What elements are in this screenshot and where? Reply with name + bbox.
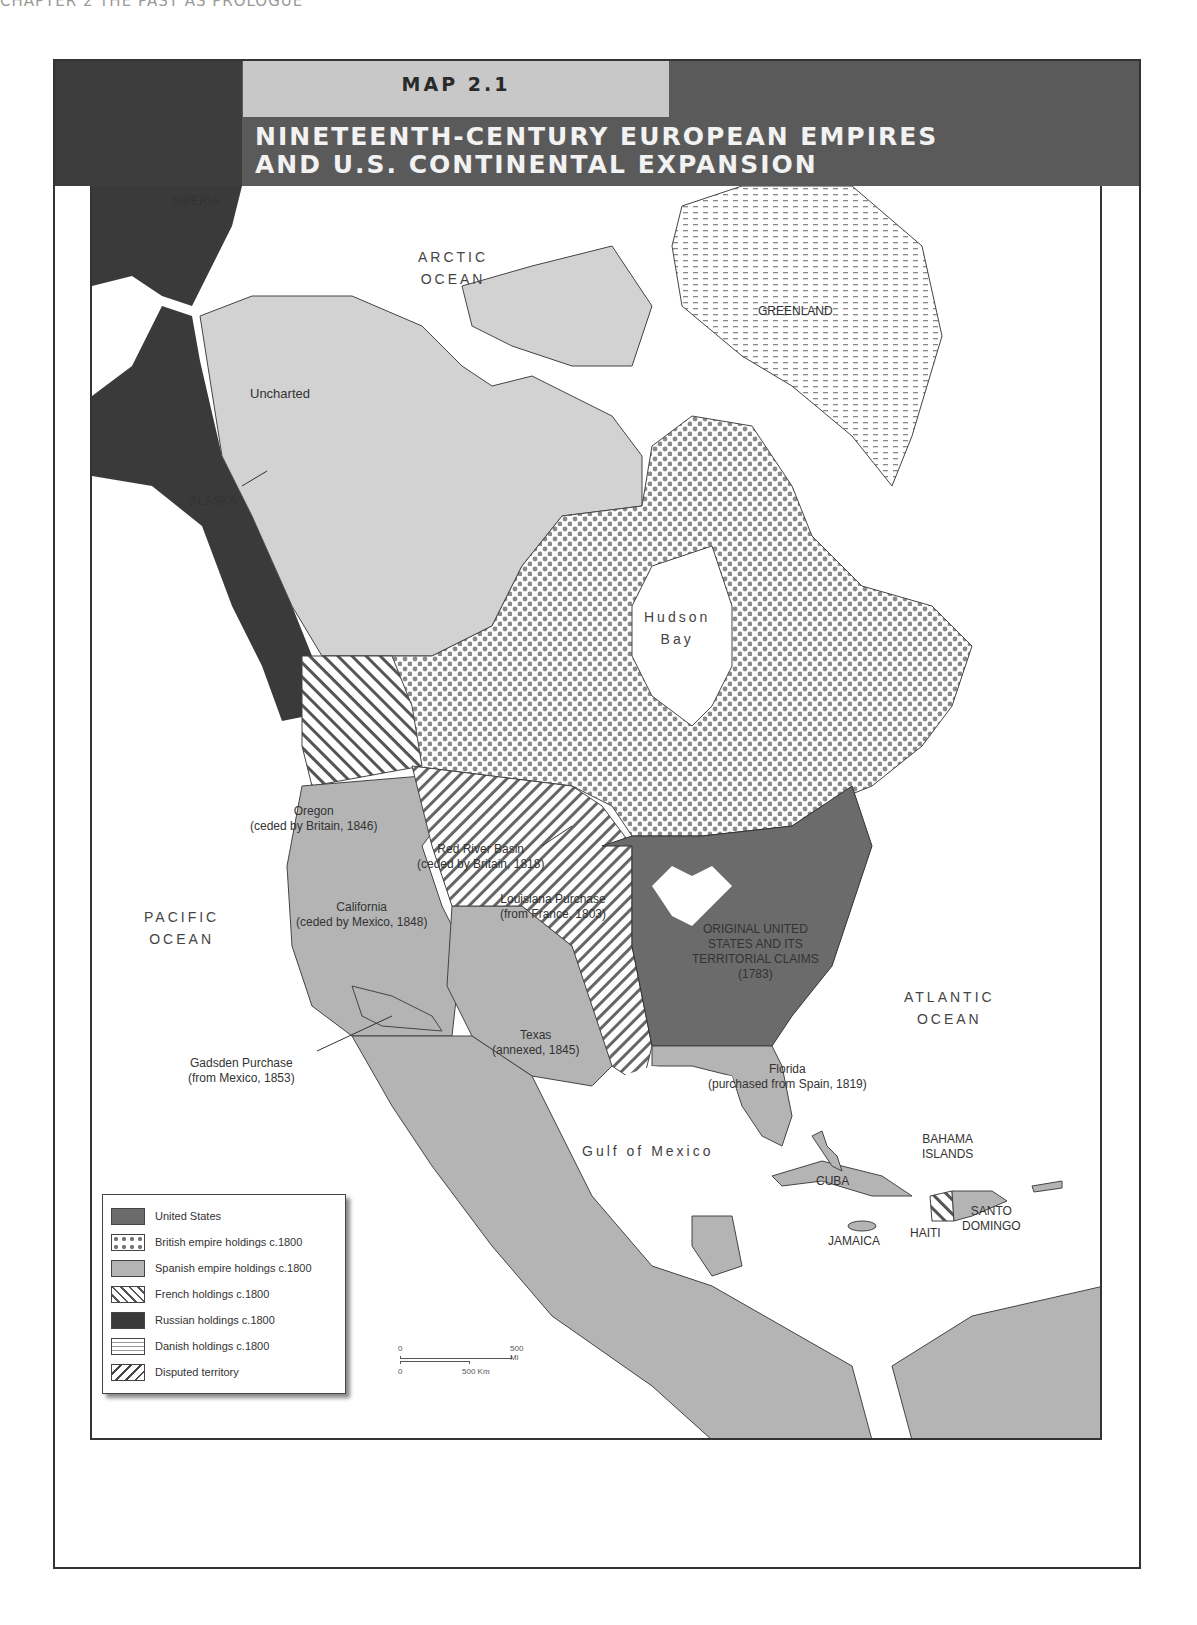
legend-item-spanish: Spanish empire holdings c.1800: [111, 1255, 337, 1281]
label-bahama-islands: BAHAMA ISLANDS: [922, 1132, 973, 1162]
label-arctic-ocean: ARCTIC OCEAN: [418, 246, 488, 290]
label-louisiana-purchase: Louisiana Purchase (from France, 1803): [500, 892, 606, 922]
map-title-line2: AND U.S. CONTINENTAL EXPANSION: [255, 151, 938, 179]
label-hudson-bay: Hudson Bay: [644, 606, 710, 650]
map-number-box: MAP 2.1: [243, 61, 669, 117]
map-title-line1: NINETEENTH-CENTURY EUROPEAN EMPIRES: [255, 123, 938, 151]
swatch-spanish-icon: [111, 1260, 145, 1277]
region-arctic-islands: [462, 246, 652, 366]
scale-line-mi: [400, 1356, 512, 1359]
scale-line-km: [400, 1361, 470, 1364]
region-south-america: [892, 1286, 1102, 1440]
label-atlantic-ocean: ATLANTIC OCEAN: [904, 986, 995, 1030]
map-header: MAP 2.1 NINETEENTH-CENTURY EUROPEAN EMPI…: [55, 61, 1139, 186]
swatch-russian-icon: [111, 1312, 145, 1329]
swatch-danish-dashes-icon: [111, 1338, 145, 1355]
region-haiti-disputed: [930, 1191, 954, 1221]
legend-item-russian: Russian holdings c.1800: [111, 1307, 337, 1333]
label-gadsden-purchase: Gadsden Purchase (from Mexico, 1853): [188, 1056, 295, 1086]
swatch-disputed-hatch-icon: [111, 1364, 145, 1381]
map-title: NINETEENTH-CENTURY EUROPEAN EMPIRES AND …: [255, 123, 938, 179]
swatch-french-hatch-icon: [111, 1286, 145, 1303]
header-accent-block: [55, 61, 242, 186]
region-jamaica: [848, 1221, 876, 1231]
scale-bar: 0 500 Mi 0 500 Km: [398, 1344, 528, 1384]
label-haiti: HAITI: [910, 1226, 941, 1241]
label-santo-domingo: SANTO DOMINGO: [962, 1204, 1021, 1234]
region-puerto-rico: [1032, 1181, 1062, 1192]
legend-item-british: British empire holdings c.1800: [111, 1229, 337, 1255]
map-legend: United States British empire holdings c.…: [102, 1194, 346, 1394]
scale-km-start: 0: [398, 1367, 402, 1376]
region-siberia: [92, 186, 242, 306]
map-canvas: ARCTIC OCEAN PACIFIC OCEAN ATLANTIC OCEA…: [90, 186, 1102, 1440]
label-alaska: ALASKA: [190, 494, 237, 509]
label-texas: Texas (annexed, 1845): [492, 1028, 579, 1058]
legend-item-united-states: United States: [111, 1203, 337, 1229]
label-uncharted: Uncharted: [250, 386, 310, 401]
legend-item-danish: Danish holdings c.1800: [111, 1333, 337, 1359]
swatch-united-states-icon: [111, 1208, 145, 1225]
label-gulf-of-mexico: Gulf of Mexico: [582, 1140, 713, 1162]
label-oregon: Oregon (ceded by Britain, 1846): [250, 804, 377, 834]
scale-km-end: 500 Km: [462, 1367, 490, 1376]
region-yucatan: [692, 1216, 742, 1276]
label-california: California (ceded by Mexico, 1848): [296, 900, 427, 930]
label-red-river-basin: Red River Basin (ceded by Britain, 1818): [417, 842, 544, 872]
label-siberia: SIBERIA: [172, 194, 219, 209]
map-number: MAP 2.1: [243, 73, 669, 95]
label-pacific-ocean: PACIFIC OCEAN: [144, 906, 219, 950]
legend-item-disputed: Disputed territory: [111, 1359, 337, 1385]
scale-mi-start: 0: [398, 1344, 402, 1353]
label-jamaica: JAMAICA: [828, 1234, 880, 1249]
label-greenland: GREENLAND: [758, 304, 833, 319]
running-head: CHAPTER 2 THE PAST AS PROLOGUE: [0, 0, 303, 10]
label-original-united-states: ORIGINAL UNITED STATES AND ITS TERRITORI…: [692, 922, 819, 982]
legend-item-french: French holdings c.1800: [111, 1281, 337, 1307]
swatch-british-dots-icon: [111, 1234, 145, 1251]
scale-mi-end: 500 Mi: [510, 1344, 528, 1362]
label-cuba: CUBA: [816, 1174, 849, 1189]
label-florida: Florida (purchased from Spain, 1819): [708, 1062, 867, 1092]
